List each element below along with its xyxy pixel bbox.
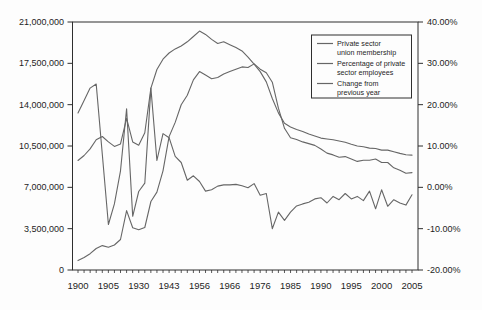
legend-label-change-from-previous-year-line2: previous year	[337, 88, 381, 97]
left-axis-tick-label: 10,500,000	[19, 141, 64, 151]
x-axis-year-label: 1976	[250, 280, 271, 291]
left-axis-tick-label: 14,000,000	[19, 100, 64, 110]
legend-label-private-sector-union-membership: Private sector	[337, 39, 382, 48]
legend-label-percentage-of-private-sector-employees-line2: sector employees	[337, 68, 394, 77]
chart-svg: 03,500,0007,000,00010,500,00014,000,0001…	[0, 0, 482, 310]
left-axis-tick-label: 3,500,000	[24, 224, 64, 234]
legend-label-percentage-of-private-sector-employees: Percentage of private	[337, 59, 405, 68]
right-axis-tick-label: -10.00%	[427, 224, 461, 234]
x-axis-year-label: 1956	[189, 280, 210, 291]
x-axis-year-label: 1966	[219, 280, 240, 291]
x-axis-year-label: 1985	[280, 280, 301, 291]
left-axis-tick-label: 17,500,000	[19, 58, 64, 68]
legend-label-private-sector-union-membership-line2: union membership	[337, 48, 396, 57]
series-line-change-from-previous-year	[78, 84, 412, 229]
legend-label-change-from-previous-year: Change from	[337, 79, 379, 88]
right-axis-tick-label: 20.00%	[427, 100, 458, 110]
right-axis-tick-label: 10.00%	[427, 141, 458, 151]
x-axis-year-label: 1930	[128, 280, 149, 291]
x-axis-year-label: 1990	[310, 280, 331, 291]
x-axis-year-label: 1900	[67, 280, 88, 291]
right-axis-tick-label: 0.00%	[427, 182, 453, 192]
right-axis-tick-label: -20.00%	[427, 265, 461, 275]
x-axis-year-label: 2000	[371, 280, 392, 291]
union-membership-chart-figure: 03,500,0007,000,00010,500,00014,000,0001…	[0, 0, 482, 310]
left-axis-tick-label: 21,000,000	[19, 17, 64, 27]
x-axis-year-label: 2005	[401, 280, 422, 291]
right-axis-tick-label: 40.00%	[427, 17, 458, 27]
left-axis-tick-label: 0	[59, 265, 64, 275]
right-axis-tick-label: 30.00%	[427, 58, 458, 68]
x-axis-year-label: 1943	[159, 280, 180, 291]
x-axis-year-label: 1995	[341, 280, 362, 291]
x-axis-year-label: 1905	[98, 280, 119, 291]
left-axis-tick-label: 7,000,000	[24, 182, 64, 192]
